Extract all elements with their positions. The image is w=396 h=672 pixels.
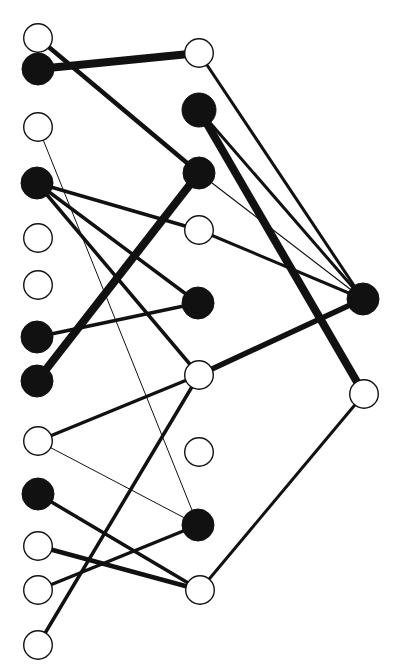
graph-node-open[interactable] <box>24 271 53 300</box>
graph-edge <box>199 53 363 299</box>
graph-edge <box>199 110 364 394</box>
graph-node-open[interactable] <box>185 438 214 467</box>
graph-edge <box>37 173 199 381</box>
graph-node-filled[interactable] <box>182 93 216 127</box>
graph-node-open[interactable] <box>24 576 53 605</box>
graph-node-open[interactable] <box>186 576 215 605</box>
graph-node-filled[interactable] <box>182 287 214 319</box>
graph-edge <box>37 303 198 337</box>
graph-node-open[interactable] <box>24 427 53 456</box>
graph-node-open[interactable] <box>350 380 379 409</box>
graph-edge <box>38 546 200 590</box>
graph-node-open[interactable] <box>24 224 53 253</box>
graph-node-open[interactable] <box>24 631 53 660</box>
graph-node-filled[interactable] <box>183 157 215 189</box>
graph-node-filled[interactable] <box>182 509 214 541</box>
graph-node-filled[interactable] <box>347 283 379 315</box>
graph-node-filled[interactable] <box>21 365 53 397</box>
graph-node-open[interactable] <box>185 216 214 245</box>
graph-node-open[interactable] <box>24 532 53 561</box>
graph-edge <box>199 110 363 299</box>
graph-edge <box>38 525 198 590</box>
graph-edge <box>38 375 199 441</box>
graph-node-filled[interactable] <box>22 478 54 510</box>
node-link-diagram <box>0 0 396 672</box>
graph-node-filled[interactable] <box>21 321 53 353</box>
graph-node-open[interactable] <box>185 39 214 68</box>
graph-node-open[interactable] <box>24 24 53 53</box>
graph-canvas <box>0 0 396 672</box>
edge-layer <box>37 38 364 645</box>
graph-edge <box>199 173 363 299</box>
graph-node-open[interactable] <box>24 113 53 142</box>
graph-node-filled[interactable] <box>21 167 53 199</box>
node-layer <box>21 24 379 660</box>
graph-node-filled[interactable] <box>22 53 54 85</box>
graph-edge <box>199 299 363 375</box>
graph-edge <box>200 394 364 590</box>
graph-node-open[interactable] <box>185 361 214 390</box>
graph-edge <box>38 127 198 525</box>
